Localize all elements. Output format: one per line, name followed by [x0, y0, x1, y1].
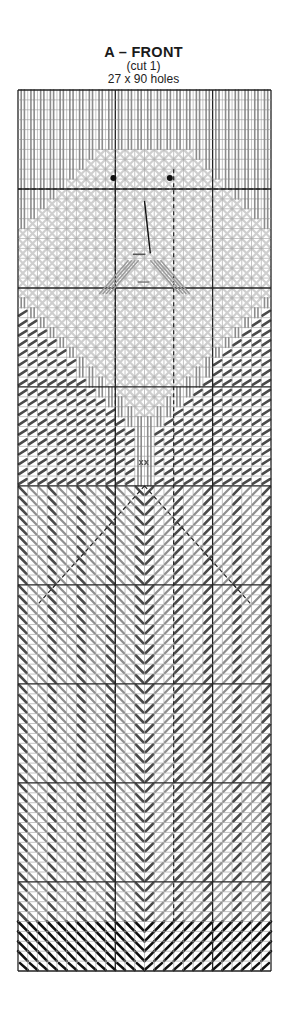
- needlepoint-chart-canvas: [0, 0, 297, 1022]
